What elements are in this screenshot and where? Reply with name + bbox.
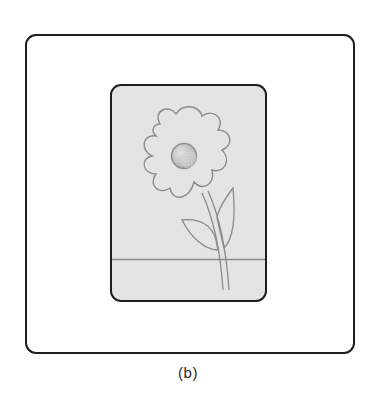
illustration — [0, 0, 376, 393]
figure-caption: (b) — [0, 364, 376, 381]
